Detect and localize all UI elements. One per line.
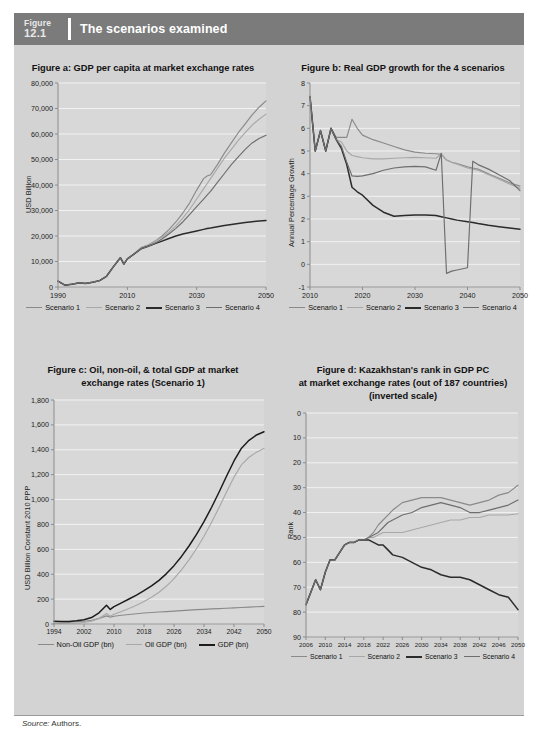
y-tick-label: 70,000 (14, 104, 53, 113)
legend-item-2[interactable]: Scenario 2 (347, 303, 401, 312)
plot-area (54, 400, 264, 624)
chart-figure-c: 02004006008001,0001,2001,4001,6001,80019… (14, 390, 272, 685)
x-tick-label: 1990 (42, 291, 74, 300)
legend-swatch-icon (347, 307, 363, 308)
x-tick-label: 2050 (248, 628, 280, 635)
chart-title-figure-d-line-3: (inverted scale) (282, 390, 524, 403)
y-tick-label: 200 (14, 595, 49, 604)
legend-item-1[interactable]: Non-Oil GDP (bn) (38, 640, 114, 649)
banner-title: The scenarios examined (80, 22, 227, 36)
legend-label: Non-Oil GDP (bn) (57, 640, 114, 649)
y-tick-label: 20,000 (14, 232, 53, 241)
x-tick-label: 2040 (452, 291, 484, 300)
legend-swatch-icon (38, 644, 54, 645)
x-tick-label: 1994 (38, 628, 70, 635)
legend-label: Scenario 2 (366, 303, 401, 312)
legend-item-1[interactable]: Scenario 1 (291, 653, 343, 660)
legend-item-1[interactable]: Scenario 1 (289, 303, 343, 312)
figure-number: 12.1 (24, 28, 66, 39)
legend-swatch-icon (199, 644, 215, 646)
figure-banner: Figure 12.1 The scenarios examined (14, 13, 524, 45)
legend-swatch-icon (291, 656, 307, 657)
chart-figure-b: -101234567820102020203020402050Annual Pe… (278, 75, 528, 335)
chart-title-figure-d-line-2: at market exchange rates (out of 187 cou… (282, 377, 524, 390)
legend-item-3[interactable]: Scenario 3 (146, 303, 200, 312)
chart-cell-figure-a: Figure a: GDP per capita at market excha… (14, 60, 272, 355)
x-tick-label: 2010 (98, 628, 130, 635)
source-note: Source: Authors. (22, 719, 81, 728)
legend-item-4[interactable]: Scenario 4 (206, 303, 260, 312)
y-tick-label: 50,000 (14, 155, 53, 164)
legend-label: Scenario 3 (425, 653, 458, 660)
legend-label: Scenario 1 (45, 303, 80, 312)
x-tick-label: 2002 (68, 628, 100, 635)
y-tick-label: 40 (278, 508, 301, 517)
legend-label: Scenario 1 (308, 303, 343, 312)
legend-swatch-icon (146, 307, 162, 309)
x-tick-label: 2010 (111, 291, 143, 300)
y-tick-label: 70 (278, 583, 301, 592)
x-tick-label: 2030 (181, 291, 213, 300)
y-tick-label: 30,000 (14, 206, 53, 215)
legend-item-4[interactable]: Scenario 4 (464, 653, 516, 660)
source-label: Source: (22, 719, 50, 728)
x-tick-label: 2026 (158, 628, 190, 635)
legend-label: GDP (bn) (218, 640, 249, 649)
chart-title-figure-c: Figure c: Oil, non-oil, & total GDP at m… (14, 360, 272, 390)
chart-title-figure-a: Figure a: GDP per capita at market excha… (14, 60, 272, 75)
figure-page: Figure 12.1 The scenarios examined Figur… (0, 0, 538, 744)
legend-label: Scenario 1 (310, 653, 343, 660)
legend-swatch-icon (349, 656, 365, 657)
chart-figure-a: 010,00020,00030,00040,00050,00060,00070,… (14, 75, 272, 335)
legend-swatch-icon (289, 307, 305, 308)
legend-item-1[interactable]: Scenario 1 (26, 303, 80, 312)
chart-title-figure-c-line-2: exchange rates (Scenario 1) (26, 377, 260, 390)
figure-c-legend: Non-Oil GDP (bn)Oil GDP (bn)GDP (bn) (14, 640, 272, 649)
chart-title-figure-b: Figure b: Real GDP growth for the 4 scen… (278, 60, 528, 75)
y-tick-label: 6 (278, 124, 305, 133)
legend-label: Scenario 4 (483, 653, 516, 660)
figure-b-legend: Scenario 1Scenario 2Scenario 3Scenario 4 (278, 303, 528, 312)
plot-area (310, 83, 520, 287)
y-tick-label: 1,800 (14, 396, 49, 405)
y-tick-label: 0 (278, 409, 301, 418)
legend-label: Scenario 4 (482, 303, 517, 312)
legend-swatch-icon (26, 307, 42, 308)
y-tick-label: 40,000 (14, 181, 53, 190)
chart-cell-figure-b: Figure b: Real GDP growth for the 4 scen… (278, 60, 528, 355)
legend-label: Scenario 2 (368, 653, 401, 660)
y-tick-label: 5 (278, 147, 305, 156)
y-tick-label: 20 (278, 458, 301, 467)
legend-swatch-icon (464, 656, 480, 657)
legend-item-3[interactable]: GDP (bn) (199, 640, 249, 649)
legend-swatch-icon (406, 656, 422, 658)
legend-swatch-icon (463, 307, 479, 308)
legend-item-3[interactable]: Scenario 3 (406, 653, 458, 660)
legend-swatch-icon (206, 307, 222, 308)
legend-item-2[interactable]: Scenario 2 (86, 303, 140, 312)
x-tick-label: 2030 (399, 291, 431, 300)
legend-item-3[interactable]: Scenario 3 (405, 303, 459, 312)
y-tick-label: 1,200 (14, 470, 49, 479)
y-tick-label: 30 (278, 483, 301, 492)
y-tick-label: 10 (278, 433, 301, 442)
x-tick-label: 2042 (218, 628, 250, 635)
y-axis-label: Annual Percentage Growth (287, 158, 296, 247)
y-tick-label: 80 (278, 608, 301, 617)
y-tick-label: 0 (278, 260, 305, 269)
y-tick-label: 1,600 (14, 420, 49, 429)
legend-item-2[interactable]: Oil GDP (bn) (126, 640, 187, 649)
legend-label: Scenario 2 (105, 303, 140, 312)
y-tick-label: 8 (278, 79, 305, 88)
y-tick-label: 80,000 (14, 79, 53, 88)
legend-item-4[interactable]: Scenario 4 (463, 303, 517, 312)
y-tick-label: 1,400 (14, 445, 49, 454)
x-tick-label: 2034 (188, 628, 220, 635)
footer-divider (14, 715, 524, 716)
legend-label: Scenario 4 (225, 303, 260, 312)
banner-divider (68, 18, 71, 40)
chart-title-figure-d-line-1: Figure d: Kazakhstan's rank in GDP PC (282, 364, 524, 377)
figure-a-legend: Scenario 1Scenario 2Scenario 3Scenario 4 (14, 303, 272, 312)
y-tick-label: 60 (278, 558, 301, 567)
legend-item-2[interactable]: Scenario 2 (349, 653, 401, 660)
